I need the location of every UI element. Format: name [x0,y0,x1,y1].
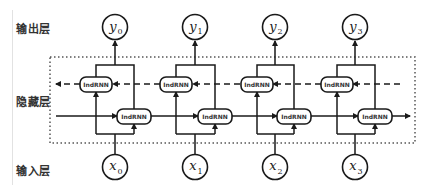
indrnn-cell-backward-2: IndRNN [241,77,273,92]
svg-text:IndRNN: IndRNN [202,113,227,120]
svg-text:IndRNN: IndRNN [362,113,387,120]
svg-text:IndRNN: IndRNN [281,113,306,120]
indrnn-cell-forward-1: IndRNN [198,109,232,124]
svg-text:3: 3 [357,167,362,176]
hidden-layer-box [50,57,415,143]
svg-text:1: 1 [197,167,202,176]
svg-text:y: y [268,19,277,34]
timestep-column-2: IndRNNIndRNNy2x2 [241,15,311,180]
output-node-y2: y2 [263,15,288,40]
timestep-column-3: IndRNNIndRNNy3x3 [321,15,392,180]
svg-text:0: 0 [117,167,122,176]
input-node-x2: x2 [263,155,288,180]
input-node-x3: x3 [343,155,368,180]
output-node-y1: y1 [183,15,208,40]
svg-text:x: x [269,158,277,173]
indrnn-cell-forward-2: IndRNN [277,109,311,124]
svg-text:1: 1 [197,27,202,36]
indrnn-cell-backward-3: IndRNN [321,77,353,92]
timestep-column-1: IndRNNIndRNNy1x1 [160,15,232,180]
indrnn-diagram: IndRNNIndRNNy0x0IndRNNIndRNNy1x1IndRNNIn… [0,0,428,195]
svg-text:y: y [188,19,197,34]
svg-text:y: y [348,19,357,34]
input-node-x1: x1 [183,155,208,180]
svg-text:IndRNN: IndRNN [83,81,108,88]
svg-text:2: 2 [277,167,282,176]
svg-text:2: 2 [277,27,282,36]
output-node-y3: y3 [343,15,368,40]
timestep-column-0: IndRNNIndRNNy0x0 [80,15,151,180]
svg-text:y: y [108,19,117,34]
svg-text:x: x [349,158,357,173]
indrnn-cell-forward-3: IndRNN [358,109,392,124]
svg-text:IndRNN: IndRNN [244,81,269,88]
indrnn-cell-forward-0: IndRNN [117,109,151,124]
svg-text:x: x [189,158,197,173]
svg-text:IndRNN: IndRNN [163,81,188,88]
indrnn-cell-backward-0: IndRNN [80,77,112,92]
input-node-x0: x0 [103,155,128,180]
svg-text:3: 3 [357,27,362,36]
svg-text:0: 0 [117,27,122,36]
indrnn-cell-backward-1: IndRNN [160,77,192,92]
svg-text:x: x [109,158,117,173]
svg-text:IndRNN: IndRNN [324,81,349,88]
svg-text:IndRNN: IndRNN [121,113,146,120]
output-node-y0: y0 [103,15,128,40]
